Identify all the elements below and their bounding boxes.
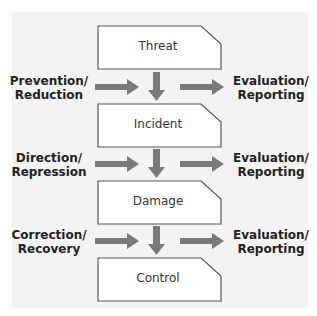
label-prevention-reduction: Prevention/ Reduction: [0, 74, 98, 102]
right-arrow-icon: [180, 233, 224, 249]
right-arrow-icon: [95, 79, 139, 95]
label-direction-repression: Direction/ Repression: [0, 151, 98, 179]
right-arrow-icon: [180, 79, 224, 95]
node-damage: Damage: [97, 180, 222, 224]
node-incident: Incident: [97, 103, 222, 147]
down-arrow-icon: [147, 72, 167, 102]
label-line: Direction/: [0, 151, 98, 165]
label-line: Evaluation/: [225, 151, 317, 165]
label-evaluation-reporting: Evaluation/ Reporting: [225, 151, 317, 179]
node-label: Damage: [97, 180, 219, 222]
label-line: Prevention/: [0, 74, 98, 88]
label-line: Evaluation/: [225, 74, 317, 88]
label-correction-recovery: Correction/ Recovery: [0, 228, 98, 256]
node-threat: Threat: [97, 25, 222, 69]
label-line: Reduction: [0, 88, 98, 102]
label-line: Reporting: [225, 242, 317, 256]
right-arrow-icon: [180, 156, 224, 172]
label-line: Reporting: [225, 88, 317, 102]
node-label: Control: [97, 257, 219, 299]
right-arrow-icon: [95, 233, 139, 249]
node-label: Incident: [97, 103, 219, 145]
down-arrow-icon: [147, 149, 167, 179]
node-label: Threat: [97, 25, 219, 67]
label-line: Recovery: [0, 242, 98, 256]
label-line: Repression: [0, 165, 98, 179]
label-line: Correction/: [0, 228, 98, 242]
label-evaluation-reporting: Evaluation/ Reporting: [225, 228, 317, 256]
right-arrow-icon: [95, 156, 139, 172]
label-line: Evaluation/: [225, 228, 317, 242]
down-arrow-icon: [147, 226, 167, 256]
node-control: Control: [97, 257, 222, 301]
label-evaluation-reporting: Evaluation/ Reporting: [225, 74, 317, 102]
label-line: Reporting: [225, 165, 317, 179]
